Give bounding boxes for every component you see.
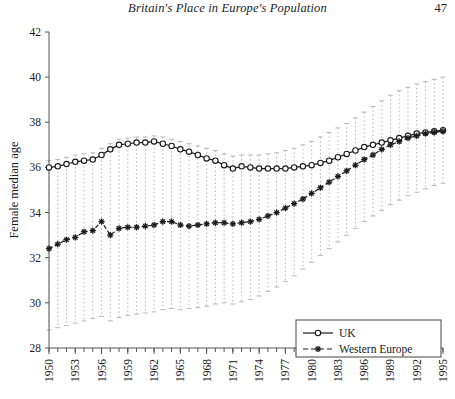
y-tick-label: 36 — [30, 161, 42, 173]
x-tick-label: 1962 — [148, 359, 160, 382]
data-point-marker — [195, 152, 200, 157]
data-point-marker — [326, 158, 331, 163]
y-tick-label: 40 — [30, 71, 42, 83]
y-tick-label: 42 — [30, 26, 42, 38]
data-point-marker — [318, 160, 323, 165]
data-point-marker — [248, 165, 253, 170]
x-tick-label: 1971 — [227, 359, 239, 382]
y-tick-label: 34 — [30, 207, 42, 219]
data-point-marker — [143, 140, 148, 145]
data-point-marker — [362, 144, 367, 149]
x-tick-label: 1950 — [43, 359, 55, 382]
data-point-marker — [186, 149, 191, 154]
data-point-marker — [64, 161, 69, 166]
data-point-marker — [151, 139, 156, 144]
series-uk — [46, 127, 445, 171]
data-point-marker — [55, 164, 60, 169]
axes-group — [49, 32, 443, 348]
chart-plot: 2830323436384042 19501953195619591962196… — [0, 20, 455, 399]
data-point-marker — [90, 157, 95, 162]
chart-figure: 2830323436384042 19501953195619591962196… — [0, 20, 455, 399]
data-point-marker — [230, 166, 235, 171]
data-point-marker — [315, 330, 320, 335]
x-tick-label: 1965 — [174, 359, 186, 382]
x-tick-label: 1953 — [69, 359, 81, 382]
data-point-marker — [99, 152, 104, 157]
data-point-marker — [108, 147, 113, 152]
x-tick-label: 1980 — [306, 359, 318, 382]
data-point-marker — [379, 140, 384, 145]
y-axis-title: Female median age — [7, 141, 21, 239]
data-point-marker — [73, 159, 78, 164]
range-bar-group — [47, 77, 446, 330]
x-tick-label: 1995 — [437, 359, 449, 382]
data-point-marker — [300, 164, 305, 169]
x-tick-label: 1974 — [253, 359, 265, 382]
data-point-marker — [370, 142, 375, 147]
data-point-marker — [81, 158, 86, 163]
legend-label-0: UK — [339, 327, 356, 339]
data-point-marker — [134, 140, 139, 145]
data-point-marker — [125, 141, 130, 146]
series-western-europe — [46, 128, 446, 252]
data-point-marker — [274, 166, 279, 171]
data-point-marker — [169, 143, 174, 148]
data-point-marker — [309, 162, 314, 167]
data-point-marker — [46, 165, 51, 170]
y-tick-label: 30 — [30, 297, 42, 309]
y-tick-label: 28 — [30, 342, 42, 354]
chart-legend[interactable]: UKWestern Europe — [296, 320, 441, 357]
page-header: Britain's Place in Europe's Population 4… — [0, 0, 455, 20]
x-tick-label: 1968 — [201, 359, 213, 382]
data-point-marker — [283, 166, 288, 171]
data-point-marker — [221, 162, 226, 167]
data-point-marker — [344, 151, 349, 156]
page-number: 47 — [435, 1, 448, 16]
x-tick-label: 1959 — [122, 359, 134, 382]
x-tick-label: 1983 — [332, 359, 344, 382]
data-point-marker — [291, 165, 296, 170]
data-point-marker — [116, 142, 121, 147]
y-tick-label: 38 — [30, 116, 42, 128]
data-point-marker — [265, 166, 270, 171]
x-tick-label: 1986 — [358, 359, 370, 382]
data-point-marker — [178, 147, 183, 152]
data-point-marker — [160, 141, 165, 146]
x-tick-label: 1992 — [411, 359, 423, 382]
x-tick-label: 1977 — [279, 359, 291, 382]
data-point-marker — [353, 148, 358, 153]
data-point-marker — [204, 156, 209, 161]
y-axis-ticks: 2830323436384042 — [30, 26, 50, 354]
data-point-marker — [213, 158, 218, 163]
x-tick-label: 1956 — [96, 359, 108, 382]
data-series-group — [46, 127, 446, 251]
running-head-title: Britain's Place in Europe's Population — [0, 1, 455, 16]
data-point-marker — [256, 166, 261, 171]
y-tick-label: 32 — [30, 252, 42, 264]
data-point-marker — [335, 155, 340, 160]
legend-label-1: Western Europe — [339, 343, 412, 356]
data-point-marker — [239, 164, 244, 169]
x-tick-label: 1989 — [384, 359, 396, 382]
